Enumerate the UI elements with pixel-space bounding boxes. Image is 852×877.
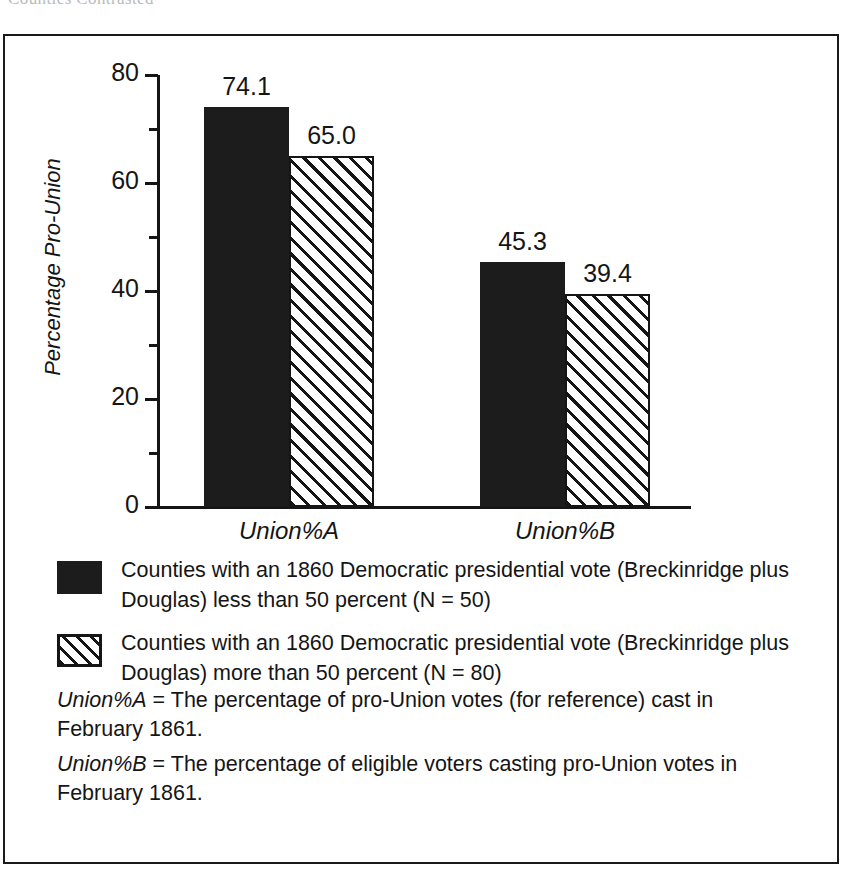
bar-union-a-democratic-over-50 [289,156,374,507]
cutoff-caption-above-figure: Counties Contrasted [8,0,408,5]
x-category-label-union-b: Union%B [480,517,650,545]
legend-line-2: Douglas) less than 50 percent (N = 50) [121,586,817,616]
legend-line-1: Counties with an 1860 Democratic preside… [121,556,817,586]
legend-swatch-solid-black-icon [57,561,102,594]
bar-union-b-democratic-over-50 [565,294,650,507]
bar-holder [5,36,841,507]
bar-value-union-b-black: 45.3 [480,229,565,254]
chart-legend: Counties with an 1860 Democratic preside… [57,556,817,703]
bar-value-union-b-hatch: 39.4 [565,261,650,286]
chart-plot-area: Percentage Pro-Union 80 60 40 20 0 [5,36,841,536]
footnote-union-a: Union%A = The percentage of pro-Union vo… [57,686,802,744]
legend-text-democratic-over-50: Counties with an 1860 Democratic preside… [121,629,817,688]
bar-value-union-a-black: 74.1 [204,74,289,99]
footnote-term-union-b: Union%B [57,752,147,776]
bar-union-b-democratic-under-50 [480,262,565,507]
footnote-union-b: Union%B = The percentage of eligible vot… [57,750,802,808]
legend-line-1: Counties with an 1860 Democratic preside… [121,629,817,659]
legend-item-democratic-under-50: Counties with an 1860 Democratic preside… [57,556,817,615]
legend-item-democratic-over-50: Counties with an 1860 Democratic preside… [57,629,817,688]
footnote-body-union-b: = The percentage of eligible voters cast… [57,752,737,805]
figure-frame: Percentage Pro-Union 80 60 40 20 0 [3,34,839,864]
footnote-body-union-a: = The percentage of pro-Union votes (for… [57,688,713,741]
legend-text-democratic-under-50: Counties with an 1860 Democratic preside… [121,556,817,615]
legend-line-2: Douglas) more than 50 percent (N = 80) [121,659,817,689]
x-category-label-union-a: Union%A [204,517,374,545]
bar-value-union-a-hatch: 65.0 [289,123,374,148]
bar-union-a-democratic-under-50 [204,107,289,507]
figure-footnotes: Union%A = The percentage of pro-Union vo… [57,686,802,814]
footnote-term-union-a: Union%A [57,688,147,712]
legend-swatch-diagonal-hatch-icon [57,634,102,667]
